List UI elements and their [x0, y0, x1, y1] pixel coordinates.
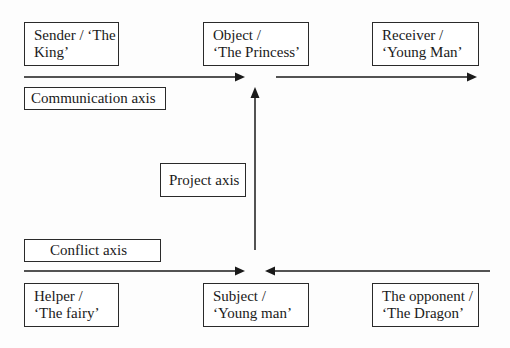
subject-label-line1: Subject /	[213, 288, 302, 305]
object-label-line2: ‘The Princess’	[213, 44, 302, 61]
arrowhead-right-icon	[467, 73, 477, 82]
subject-label-line2: ‘Young man’	[213, 305, 302, 322]
project-axis-text: Project axis	[169, 172, 239, 188]
communication-axis-label: Communication axis	[24, 87, 166, 110]
sender-box: Sender / ‘The King’	[24, 22, 119, 66]
arrowhead-right-icon	[235, 73, 245, 82]
receiver-label-line1: Receiver /	[382, 27, 472, 44]
sender-label-line1: Sender / ‘The	[34, 27, 112, 44]
project-axis-label: Project axis	[160, 163, 246, 197]
opponent-label-line1: The opponent /	[382, 288, 472, 305]
helper-label-line2: ‘The fairy’	[34, 305, 112, 322]
object-box: Object / ‘The Princess’	[203, 22, 309, 66]
receiver-label-line2: ‘Young Man’	[382, 44, 472, 61]
opponent-label-line2: ‘The Dragon’	[382, 305, 472, 322]
arrowhead-right-icon	[235, 267, 245, 276]
conflict-axis-label: Conflict axis	[24, 239, 161, 262]
helper-label-line1: Helper /	[34, 288, 112, 305]
subject-box: Subject / ‘Young man’	[203, 283, 309, 327]
sender-label-line2: King’	[34, 44, 112, 61]
opponent-box: The opponent / ‘The Dragon’	[372, 283, 479, 327]
communication-axis-text: Communication axis	[31, 90, 156, 106]
diagram-canvas: Sender / ‘The King’ Object / ‘The Prince…	[0, 0, 510, 348]
arrowhead-up-icon	[251, 87, 260, 98]
conflict-axis-text: Conflict axis	[50, 242, 127, 258]
object-label-line1: Object /	[213, 27, 302, 44]
helper-box: Helper / ‘The fairy’	[24, 283, 119, 327]
arrowhead-left-icon	[265, 267, 275, 276]
receiver-box: Receiver / ‘Young Man’	[372, 22, 479, 66]
